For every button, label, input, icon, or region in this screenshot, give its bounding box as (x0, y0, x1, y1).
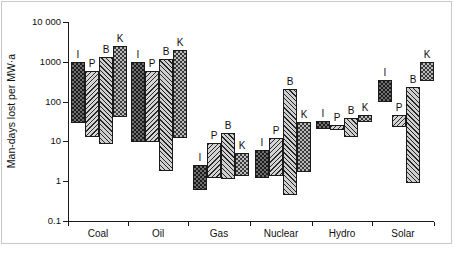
y-axis-tick-label: 10 000 (32, 17, 61, 26)
bar-solar-p (392, 115, 406, 127)
y-axis-tick-label: 100 (45, 97, 61, 106)
y-axis-tick (63, 62, 68, 63)
x-axis-tick (188, 222, 189, 226)
bar-hydro-k (358, 115, 372, 122)
bar-nuclear-b (283, 89, 297, 195)
bar-solar-i (378, 80, 392, 102)
bar-oil-i (131, 62, 145, 142)
x-axis-category-label-nuclear: Nuclear (246, 228, 316, 240)
bar-coal-b (99, 57, 113, 144)
bar-label-solar-i: I (375, 68, 395, 78)
bar-gas-b (221, 133, 235, 179)
y-axis-tick-label: 1 (56, 176, 61, 185)
x-axis-tick (128, 222, 129, 226)
bar-solar-k (420, 62, 434, 81)
x-axis-tick (250, 222, 251, 226)
bar-label-oil-k: K (170, 38, 190, 48)
bar-coal-k (113, 46, 127, 117)
bar-label-coal-k: K (110, 34, 130, 44)
bar-nuclear-k (297, 122, 311, 172)
x-axis-category-label-hydro: Hydro (307, 228, 377, 240)
bar-label-nuclear-k: K (294, 110, 314, 120)
y-axis-tick-labels: 0.1110100100010 000 (0, 0, 61, 269)
bar-gas-k (235, 153, 249, 176)
x-axis-tick (68, 222, 69, 226)
bar-coal-i (71, 62, 85, 123)
bar-gas-p (207, 143, 221, 178)
bar-oil-p (145, 71, 159, 142)
bar-nuclear-i (255, 150, 269, 178)
y-axis-tick-label: 10 (50, 136, 61, 145)
figure-chart: Man-days lost per MW·a 0.1110100100010 0… (0, 0, 454, 269)
bar-nuclear-p (269, 138, 283, 176)
x-axis-category-label-oil: Oil (123, 228, 193, 240)
y-axis-tick-label: 1000 (40, 57, 61, 66)
x-axis-tick (372, 222, 373, 226)
y-axis-tick (63, 22, 68, 23)
bar-coal-p (85, 71, 99, 137)
x-axis-category-label-gas: Gas (184, 228, 254, 240)
bar-label-hydro-k: K (355, 103, 375, 113)
bar-label-gas-k: K (232, 141, 252, 151)
bar-solar-b (406, 87, 420, 183)
x-axis-tick (434, 222, 435, 226)
y-axis-tick (63, 181, 68, 182)
bar-hydro-p (330, 125, 344, 130)
bar-label-solar-k: K (417, 50, 437, 60)
bar-oil-b (159, 59, 173, 171)
y-axis-tick (63, 102, 68, 103)
bar-label-nuclear-b: B (280, 77, 300, 87)
bar-hydro-b (344, 118, 358, 137)
x-axis-category-label-solar: Solar (368, 228, 438, 240)
bar-label-gas-b: B (218, 121, 238, 131)
y-axis-tick-label: 0.1 (48, 216, 61, 225)
bar-oil-k (173, 50, 187, 138)
y-axis-tick (63, 141, 68, 142)
bar-gas-i (193, 165, 207, 190)
x-axis-tick (312, 222, 313, 226)
